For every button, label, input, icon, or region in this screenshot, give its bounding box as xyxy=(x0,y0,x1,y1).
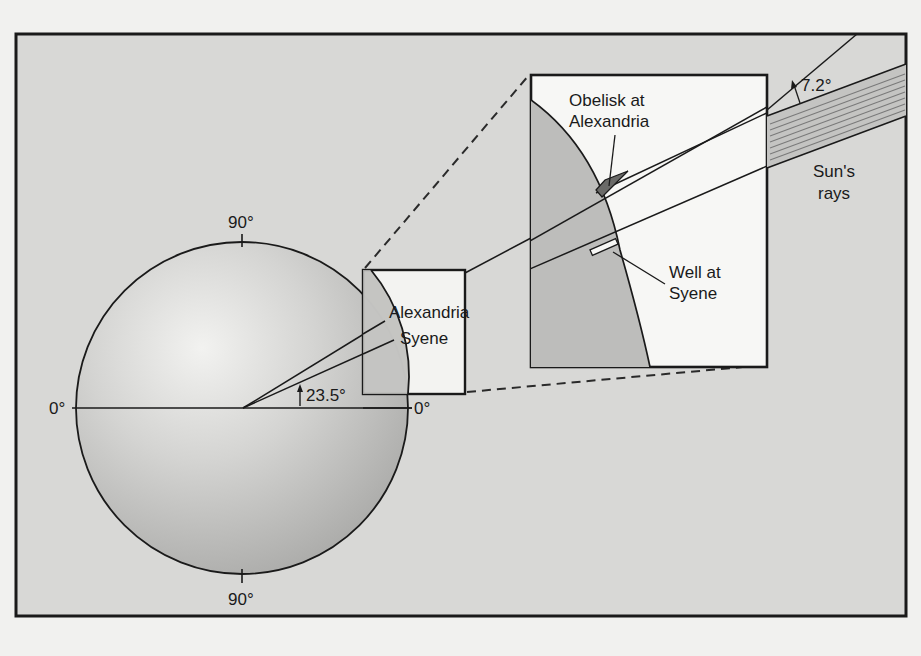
eratosthenes-diagram: 90° 90° 0° 0° 23.5° Alexandria Syene Obe… xyxy=(0,0,921,656)
alexandria-label: Alexandria xyxy=(389,303,470,322)
well-label-line2: Syene xyxy=(669,284,717,303)
south-pole-label: 90° xyxy=(228,590,254,609)
globe-angle-label: 23.5° xyxy=(306,386,346,405)
sun-angle-label: 7.2° xyxy=(801,76,831,95)
equator-left-label: 0° xyxy=(49,399,65,418)
north-pole-label: 90° xyxy=(228,213,254,232)
sun-rays-label-line1: Sun's xyxy=(813,162,855,181)
syene-label: Syene xyxy=(400,329,448,348)
well-label-line1: Well at xyxy=(669,263,721,282)
obelisk-label-line1: Obelisk at xyxy=(569,91,645,110)
sun-rays-label-line2: rays xyxy=(818,184,850,203)
equator-right-label: 0° xyxy=(414,399,430,418)
obelisk-label-line2: Alexandria xyxy=(569,112,650,131)
